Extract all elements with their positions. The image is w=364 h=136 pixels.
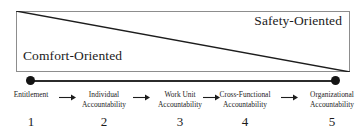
stage-labels-row: EntitlementIndividual AccountabilityWork… [0, 90, 364, 114]
axis-end-dot [331, 76, 340, 85]
safety-oriented-label: Safety-Oriented [254, 14, 342, 28]
stage-label: Work Unit Accountability [151, 90, 209, 109]
stage-number: 3 [168, 114, 192, 130]
right-arrow-icon [59, 93, 77, 102]
right-arrow-icon [281, 93, 299, 102]
right-arrow-icon [203, 93, 221, 102]
stage-number: 5 [320, 114, 344, 130]
stage-number: 2 [92, 114, 116, 130]
stage-label: Organizational Accountability [302, 90, 362, 109]
stage-label: Individual Accountability [75, 90, 133, 109]
stage-number: 4 [233, 114, 257, 130]
axis-start-dot [26, 76, 35, 85]
continuum-axis-line [31, 80, 336, 82]
stage-numbers-row: 12345 [0, 114, 364, 134]
comfort-oriented-label: Comfort-Oriented [23, 49, 122, 63]
stage-label: Entitlement [5, 90, 57, 100]
right-arrow-icon [133, 93, 151, 102]
stage-number: 1 [19, 114, 43, 130]
stage-label: Cross-Functional Accountability [214, 90, 276, 109]
accountability-continuum-figure: Safety-Oriented Comfort-Oriented Entitle… [0, 0, 364, 136]
